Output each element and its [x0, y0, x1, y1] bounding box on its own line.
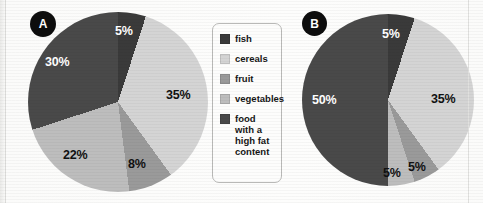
- scan-edge-right: [468, 0, 469, 203]
- slice-label-b-fruit: 5%: [383, 166, 401, 180]
- legend-label-cereals: cereals: [235, 53, 268, 64]
- slice-label-a-fat: 30%: [45, 55, 69, 69]
- panel-label-a: A: [30, 11, 56, 37]
- legend-label-vegetables: vegetables: [235, 93, 284, 104]
- slice-label-b-vegetables: 5%: [408, 160, 426, 174]
- legend-item-cereals: cereals: [220, 53, 275, 64]
- legend-item-fruit: fruit: [220, 73, 275, 84]
- pie-chart-figure: A 5% 35% 8% 22% 30% fish cereals fruit v…: [0, 0, 483, 203]
- legend-swatch-vegetables-icon: [220, 94, 230, 104]
- legend-item-fat: food with a high fat content: [220, 113, 275, 157]
- legend-swatch-cereals-icon: [220, 54, 230, 64]
- slice-label-a-fruit: 8%: [128, 157, 146, 171]
- legend-swatch-fish-icon: [220, 34, 230, 44]
- slice-label-b-fish: 5%: [382, 27, 400, 41]
- slice-label-b-cereals: 35%: [431, 92, 455, 106]
- legend: fish cereals fruit vegetables food with …: [212, 23, 282, 183]
- legend-item-vegetables: vegetables: [220, 93, 275, 104]
- slice-label-a-cereals: 35%: [166, 88, 190, 102]
- legend-swatch-fat-icon: [220, 114, 230, 124]
- panel-label-b: B: [302, 11, 327, 36]
- legend-label-fat: food with a high fat content: [235, 113, 275, 157]
- pie-a-graphic: [28, 12, 208, 192]
- legend-swatch-fruit-icon: [220, 74, 230, 84]
- legend-label-fruit: fruit: [235, 73, 253, 84]
- legend-item-fish: fish: [220, 33, 275, 44]
- slice-label-a-fish: 5%: [115, 24, 133, 38]
- slice-label-a-vegetables: 22%: [63, 148, 87, 162]
- slice-label-b-fat: 50%: [312, 93, 336, 107]
- scan-edge-left: [5, 0, 6, 203]
- legend-label-fish: fish: [235, 33, 252, 44]
